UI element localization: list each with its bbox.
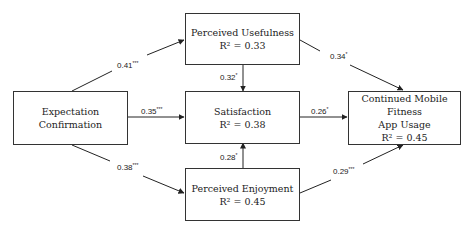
- node-cu-line2: App Usage: [378, 118, 430, 131]
- arrow-ec-pu: [72, 71, 112, 91]
- arrow-pe-cu-head: [363, 145, 403, 164]
- coef: 0.35: [141, 107, 157, 116]
- node-pu-line1: Perceived Usefulness: [191, 26, 294, 39]
- node-continued-usage: Continued Mobile Fitness App Usage R² = …: [348, 91, 461, 145]
- path-label-pe-sat: 0.28*: [220, 152, 238, 162]
- node-cu-line1: Continued Mobile Fitness: [349, 92, 460, 118]
- significance: ***: [349, 166, 355, 172]
- significance: *: [236, 72, 238, 78]
- node-pe-line1: Perceived Enjoyment: [192, 182, 294, 195]
- node-sat-line1: Satisfaction: [214, 105, 271, 118]
- arrow-ec-pe-head: [143, 176, 184, 193]
- arrow-pu-cu: [300, 40, 320, 51]
- coef: 0.41: [117, 61, 133, 70]
- significance: *: [346, 51, 348, 57]
- node-perceived-enjoyment: Perceived Enjoyment R² = 0.45: [185, 168, 300, 221]
- path-label-ec-pe: 0.38***: [117, 162, 138, 172]
- significance: *: [236, 152, 238, 158]
- coef: 0.29: [333, 167, 349, 176]
- path-label-ec-sat: 0.35***: [141, 106, 162, 116]
- significance: ***: [133, 162, 139, 168]
- coef: 0.26: [311, 107, 327, 116]
- significance: *: [327, 106, 329, 112]
- node-satisfaction: Satisfaction R² = 0.38: [185, 91, 300, 144]
- coef: 0.28: [220, 153, 236, 162]
- coef: 0.32: [220, 73, 236, 82]
- node-sat-line2: R² = 0.38: [219, 118, 265, 131]
- coef: 0.38: [117, 163, 133, 172]
- arrow-pe-cu: [300, 180, 331, 193]
- coef: 0.34: [330, 52, 346, 61]
- node-expectation-confirmation: Expectation Confirmation: [13, 91, 128, 145]
- significance: ***: [157, 106, 163, 112]
- path-label-sat-cu: 0.26*: [311, 106, 329, 116]
- arrow-ec-pu-head: [147, 40, 184, 55]
- node-cu-line3: R² = 0.45: [381, 131, 427, 144]
- path-label-pu-sat: 0.32*: [220, 72, 238, 82]
- node-perceived-usefulness: Perceived Usefulness R² = 0.33: [185, 13, 300, 65]
- node-pu-line2: R² = 0.33: [219, 39, 265, 52]
- node-ec-line1: Expectation: [42, 105, 100, 118]
- arrow-pu-cu-head: [350, 65, 403, 90]
- path-label-ec-pu: 0.41***: [117, 60, 138, 70]
- path-label-pu-cu: 0.34*: [330, 51, 348, 61]
- path-label-pe-cu: 0.29***: [333, 166, 354, 176]
- node-ec-line2: Confirmation: [39, 118, 102, 131]
- arrow-ec-pe: [72, 145, 110, 161]
- node-pe-line2: R² = 0.45: [219, 195, 265, 208]
- significance: ***: [133, 60, 139, 66]
